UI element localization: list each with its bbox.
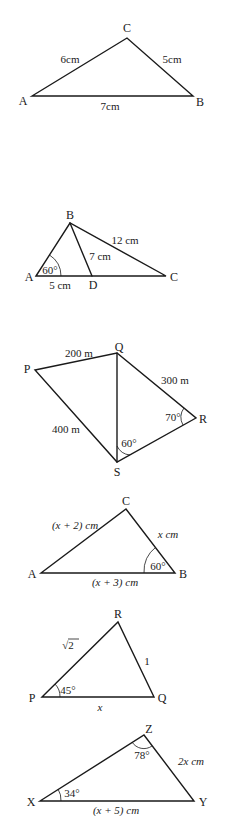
vertex-label-b: B [196, 95, 204, 109]
angle-arc-x [58, 789, 61, 801]
angle-label-r: 70° [165, 411, 180, 423]
vertex-label-x: X [27, 795, 36, 809]
vertex-label-a: A [25, 270, 34, 284]
vertex-label-a: A [19, 94, 28, 108]
side-label-qr: 300 m [161, 374, 189, 386]
vertex-label-b: B [66, 208, 74, 222]
vertex-label-b: B [179, 567, 187, 581]
angle-label-a: 60° [42, 264, 57, 276]
figure-4-triangle-abc: C A B (x + 2) cm x cm (x + 3) cm 60° [28, 494, 187, 589]
vertex-label-a: A [28, 567, 37, 581]
vertex-label-r: R [114, 607, 122, 621]
angle-label-x: 34° [64, 787, 79, 799]
side-label-ad: 5 cm [49, 279, 71, 291]
vertex-label-c: C [170, 270, 178, 284]
vertex-label-z: Z [145, 722, 152, 736]
side-label-cb: x cm [157, 528, 179, 540]
triangle-abc [32, 38, 193, 96]
side-label-ab: 7cm [101, 100, 120, 112]
side-label-ac: 6cm [61, 53, 80, 65]
side-label-bc: 12 cm [111, 234, 139, 246]
vertex-label-q: Q [158, 691, 167, 705]
angle-arc-r [181, 408, 184, 425]
angle-arc-z [132, 742, 152, 749]
side-label-cb: 5cm [163, 53, 182, 65]
side-label-ps: 400 m [52, 423, 80, 435]
angle-arc-p [55, 684, 60, 697]
vertex-label-p: P [29, 691, 36, 705]
angle-label-b: 60° [150, 560, 165, 572]
vertex-label-r: R [199, 412, 207, 426]
side-label-pr: √2 [62, 639, 74, 651]
figure-6-triangle-xyz: Z X Y 78° 2x cm 34° (x + 5) cm [27, 722, 208, 816]
figure-1-triangle-abc: C A B 6cm 5cm 7cm [19, 21, 204, 112]
vertex-label-y: Y [199, 795, 208, 809]
side-label-rq: 1 [144, 655, 150, 667]
triangle-pqr [42, 622, 154, 697]
figure-2-triangle-abc-with-d: B A D C 12 cm 7 cm 5 cm 60° [25, 208, 178, 292]
side-label-xy: (x + 5) cm [93, 804, 139, 816]
side-label-ab: (x + 3) cm [92, 576, 138, 589]
side-label-zy: 2x cm [178, 755, 204, 767]
vertex-label-q: Q [115, 340, 124, 354]
vertex-label-d: D [89, 278, 98, 292]
geometry-figures: C A B 6cm 5cm 7cm B A D C 12 cm 7 cm 5 c… [0, 0, 225, 816]
figure-5-triangle-pqr: R P Q √2 1 x 45° [29, 607, 167, 713]
side-label-ac: (x + 2) cm [52, 519, 98, 532]
side-label-pq: 200 m [65, 347, 93, 359]
vertex-label-p: P [24, 362, 31, 376]
vertex-label-s: S [114, 465, 121, 479]
side-label-bd: 7 cm [89, 250, 111, 262]
side-label-pq: x [97, 701, 103, 713]
vertex-label-c: C [122, 494, 130, 508]
figure-3-quadrilateral-pqrs: Q P R S 200 m 300 m 400 m 70° 60° [24, 340, 207, 479]
angle-label-p: 45° [60, 684, 75, 696]
triangle-xyz [40, 735, 194, 801]
vertex-label-c: C [123, 21, 131, 35]
angle-label-s: 60° [121, 437, 136, 449]
quadrilateral-pqrs [35, 353, 196, 462]
angle-label-z: 78° [134, 749, 149, 761]
